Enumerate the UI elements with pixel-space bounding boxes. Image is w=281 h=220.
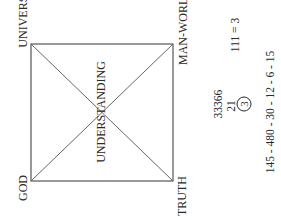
label-understanding: UNDERSTANDING xyxy=(95,61,107,163)
label-god: GOD xyxy=(17,175,29,201)
circled-number-3: 3 xyxy=(237,97,252,112)
label-man-world: MAN-WORLD xyxy=(177,0,189,65)
label-universe: UNIVERSE xyxy=(17,0,29,48)
number-33366: 33366 xyxy=(213,90,225,119)
equation-111-equals-3: 111 = 3 xyxy=(230,18,242,52)
circled-3-text: 3 xyxy=(237,97,252,112)
label-truth: TRUTH xyxy=(176,176,188,216)
number-sequence: 145 - 480 - 30 - 12 - 6 - 15 xyxy=(265,51,277,174)
